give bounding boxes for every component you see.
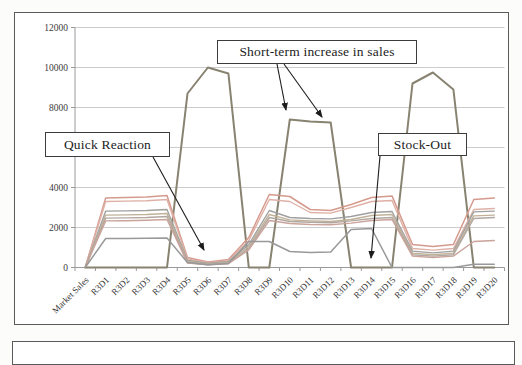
x-tick-label: R3D10 <box>270 274 296 300</box>
annotation-short-term-increase-label: Short-term increase in sales <box>239 44 394 60</box>
x-tick-label: R3D17 <box>413 274 439 300</box>
y-tick-label: 0 <box>63 263 68 273</box>
y-tick-label: 2000 <box>49 223 68 233</box>
x-tick-label: R3D18 <box>433 274 459 300</box>
x-tick-label: R3D6 <box>191 274 214 297</box>
series-line-pink-2 <box>85 220 494 268</box>
x-tick-label: R3D15 <box>372 274 398 300</box>
x-tick-label: R3D8 <box>232 274 255 297</box>
y-tick-label: 10000 <box>44 63 68 73</box>
x-tick-label: R3D2 <box>109 275 131 297</box>
x-tick-label: R3D7 <box>212 274 235 297</box>
annotation-short-term-increase: Short-term increase in sales <box>217 40 417 64</box>
annotation-quick-reaction: Quick Reaction <box>45 132 170 157</box>
y-tick-label: 8000 <box>49 103 68 113</box>
x-tick-label: R3D1 <box>89 275 111 297</box>
series-line-stockout-line <box>85 229 494 268</box>
x-tick-label: R3D13 <box>331 274 357 300</box>
x-tick-label: R3D16 <box>392 274 418 300</box>
x-tick-label: R3D20 <box>474 274 500 300</box>
x-tick-label: R3D4 <box>150 274 173 297</box>
annotation-stock-out: Stock-Out <box>378 133 467 156</box>
annotation-quick-reaction-label: Quick Reaction <box>64 137 151 153</box>
x-tick-label: R3D14 <box>352 274 378 300</box>
x-tick-label: Market Sales <box>50 275 91 316</box>
y-tick-label: 4000 <box>49 183 68 193</box>
x-tick-label: R3D19 <box>454 274 480 300</box>
x-tick-label: R3D3 <box>130 274 153 297</box>
x-tick-label: R3D5 <box>171 274 194 297</box>
annotation-stock-out-label: Stock-Out <box>394 137 451 153</box>
y-tick-label: 12000 <box>44 23 68 33</box>
series-line-promo-spike <box>85 68 494 268</box>
x-tick-label: R3D11 <box>290 275 315 300</box>
x-tick-label: R3D12 <box>311 275 336 300</box>
